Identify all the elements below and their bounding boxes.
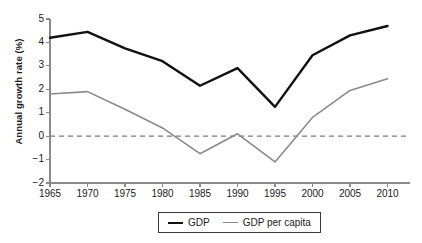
- legend-label-gdp: GDP: [188, 217, 210, 228]
- plot-area: [0, 0, 422, 243]
- series-line-gdp-per-capita: [50, 79, 388, 162]
- x-axis-tick-marks: [50, 183, 388, 187]
- legend-line-icon-gdp: [168, 222, 183, 224]
- series-line-gdp: [50, 26, 388, 107]
- chart-legend: GDP GDP per capita: [158, 212, 321, 233]
- legend-item-gdp-per-capita: GDP per capita: [223, 217, 311, 228]
- legend-label-gdp-per-capita: GDP per capita: [243, 217, 311, 228]
- legend-line-icon-gdp-per-capita: [223, 222, 238, 223]
- chart-container: Annual growth rate (%) 543210−1−2 196519…: [0, 0, 422, 243]
- legend-item-gdp: GDP: [168, 217, 210, 228]
- axis-lines: [50, 19, 410, 183]
